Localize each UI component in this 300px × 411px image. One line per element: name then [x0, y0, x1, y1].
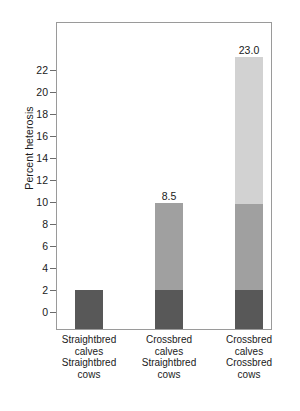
bar-segment-individual-heterosis — [155, 203, 183, 290]
category-label-3-line-2: calves — [201, 346, 297, 358]
y-tick-label-18: 18 — [18, 109, 48, 119]
bar-segment-baseline — [155, 290, 183, 329]
bar-segment-baseline — [75, 290, 103, 329]
bar-value-label-8-5: 8.5 — [139, 190, 199, 202]
y-tick-label-8: 8 — [18, 219, 48, 229]
bar-segment-baseline — [235, 290, 263, 329]
y-tick-label-2: 2 — [18, 285, 48, 295]
category-label-3-line-1: Crossbred — [201, 334, 297, 346]
category-label-3-line-4: cows — [201, 369, 297, 381]
category-label-3: Crossbred calves Crossbred cows — [201, 334, 297, 380]
y-tick-label-4: 4 — [18, 263, 48, 273]
y-tick-label-6: 6 — [18, 241, 48, 251]
bar-segment-maternal-heterosis — [235, 57, 263, 204]
bar-segment-individual-heterosis — [235, 204, 263, 290]
bar-crossbred-crossbred[interactable] — [235, 57, 263, 329]
bar-crossbred-straightbred[interactable] — [155, 203, 183, 329]
bar-value-label-23-0: 23.0 — [219, 44, 279, 56]
y-tick-label-16: 16 — [18, 131, 48, 141]
chart-figure: Percent heterosis 22 20 18 16 14 12 10 8… — [0, 0, 300, 411]
y-tick-label-20: 20 — [18, 87, 48, 97]
y-tick-label-14: 14 — [18, 153, 48, 163]
y-tick-label-22: 22 — [18, 65, 48, 75]
y-tick-label-0: 0 — [18, 307, 48, 317]
y-tick-label-12: 12 — [18, 175, 48, 185]
y-tick-label-10: 10 — [18, 197, 48, 207]
category-label-3-line-3: Crossbred — [201, 357, 297, 369]
bar-straightbred-straightbred[interactable] — [75, 290, 103, 329]
